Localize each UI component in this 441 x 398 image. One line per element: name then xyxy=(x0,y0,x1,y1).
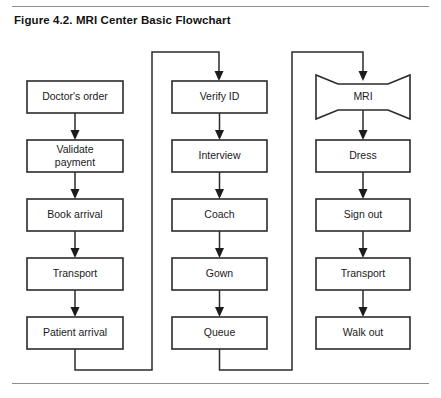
node-patient-arrival-label: Patient arrival xyxy=(43,326,107,338)
node-validate-payment-label-line1: Validate xyxy=(56,143,93,155)
node-validate-payment[interactable]: Validate payment xyxy=(27,140,123,172)
column-scan-and-exit: MRI Dress Sign out Transport xyxy=(316,75,410,349)
node-sign-out-label: Sign out xyxy=(344,208,383,220)
bottom-divider-rule xyxy=(12,383,429,384)
arrow-head-c3-1-2 xyxy=(359,130,368,140)
node-coach[interactable]: Coach xyxy=(172,199,267,231)
arrow-head-c3-4-5 xyxy=(359,307,368,317)
arrow-head-c1-2-3 xyxy=(71,189,80,199)
arrow-head-c2-4-5 xyxy=(215,307,224,317)
arrow-head-c1-1-2 xyxy=(71,130,80,140)
arrow-head-verify-id xyxy=(215,71,224,81)
node-transport-c3-label: Transport xyxy=(341,267,386,279)
arrow-head-c3-3-4 xyxy=(359,248,368,258)
node-book-arrival[interactable]: Book arrival xyxy=(27,199,123,231)
node-gown-label: Gown xyxy=(206,267,234,279)
arrow-head-c2-2-3 xyxy=(215,189,224,199)
node-transport-c3[interactable]: Transport xyxy=(316,258,410,290)
node-transport-c1-label: Transport xyxy=(53,267,98,279)
node-doctors-order[interactable]: Doctor's order xyxy=(27,81,123,113)
arrow-head-c1-4-5 xyxy=(71,307,80,317)
node-verify-id-label: Verify ID xyxy=(200,90,240,102)
node-dress-label: Dress xyxy=(349,149,376,161)
node-interview-label: Interview xyxy=(198,149,240,161)
node-coach-label: Coach xyxy=(204,208,235,220)
node-mri-label: MRI xyxy=(353,90,372,102)
node-book-arrival-label: Book arrival xyxy=(47,208,102,220)
node-interview[interactable]: Interview xyxy=(172,140,267,172)
node-doctors-order-label: Doctor's order xyxy=(42,90,108,102)
node-transport-c1[interactable]: Transport xyxy=(27,258,123,290)
flowchart-canvas: Doctor's order Validate payment Book arr… xyxy=(0,0,441,398)
node-dress[interactable]: Dress xyxy=(316,140,410,172)
node-verify-id[interactable]: Verify ID xyxy=(172,81,267,113)
node-sign-out[interactable]: Sign out xyxy=(316,199,410,231)
node-validate-payment-label-line2: payment xyxy=(55,156,95,168)
arrow-head-c2-3-4 xyxy=(215,248,224,258)
node-queue-label: Queue xyxy=(204,326,236,338)
arrow-head-c3-2-3 xyxy=(359,189,368,199)
node-walk-out[interactable]: Walk out xyxy=(316,317,410,349)
node-gown[interactable]: Gown xyxy=(172,258,267,290)
figure-container: Figure 4.2. MRI Center Basic Flowchart D… xyxy=(0,0,441,398)
arrow-head-c1-3-4 xyxy=(71,248,80,258)
node-walk-out-label: Walk out xyxy=(343,326,384,338)
column-pre-arrival: Doctor's order Validate payment Book arr… xyxy=(27,81,123,349)
arrow-head-c2-1-2 xyxy=(215,130,224,140)
column-preparation: Verify ID Interview Coach Gown xyxy=(172,81,267,349)
arrow-head-mri xyxy=(359,71,368,81)
node-patient-arrival[interactable]: Patient arrival xyxy=(27,317,123,349)
node-queue[interactable]: Queue xyxy=(172,317,267,349)
